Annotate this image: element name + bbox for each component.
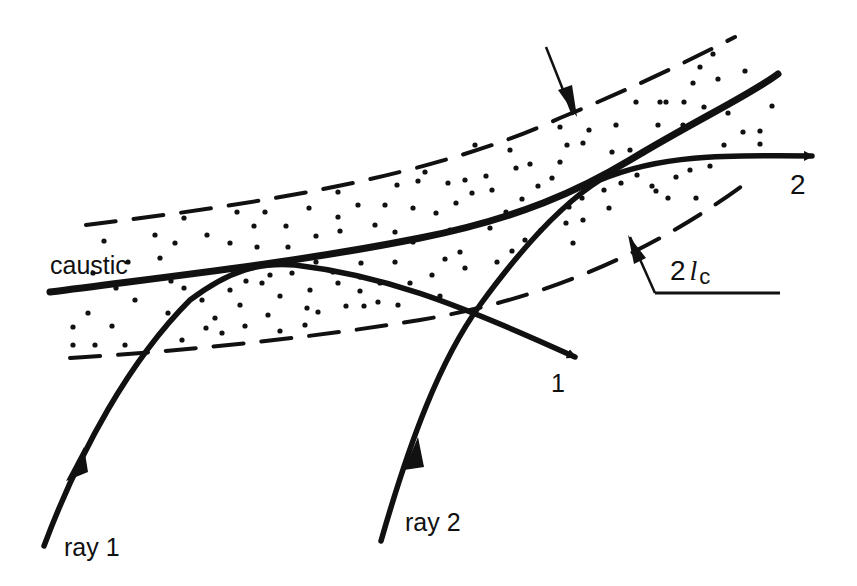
width-leader-lower-arrow-icon (628, 235, 646, 264)
caustic-zone-fill (70, 51, 774, 347)
label-width-subscript: c (699, 264, 710, 289)
caustic-zone-lower-boundary (70, 180, 750, 358)
label-ray-2: ray 2 (405, 508, 461, 536)
caustic-diagram: caustic ray 1 ray 2 1 2 2lc (0, 0, 857, 586)
label-width-l: l (690, 255, 698, 286)
label-ray-1: ray 1 (64, 533, 120, 561)
label-width: 2lc (670, 255, 710, 289)
width-leader-upper-arrow-icon (558, 85, 577, 117)
label-caustic: caustic (50, 251, 128, 279)
label-width-prefix: 2 (670, 255, 686, 286)
caustic-zone-upper-boundary (86, 37, 735, 225)
ray-1-direction-arrow-icon (66, 447, 88, 481)
label-out-1: 1 (551, 369, 565, 397)
ray-1-path (44, 264, 575, 546)
ray-2-path (381, 156, 812, 541)
label-out-2: 2 (790, 169, 806, 200)
